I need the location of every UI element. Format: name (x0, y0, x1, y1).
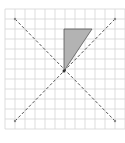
line-endpoint-marker (14, 120, 16, 122)
line-endpoint-marker (14, 18, 16, 20)
line-endpoint-marker (114, 18, 116, 20)
geometry-diagram (0, 0, 125, 143)
line-endpoint-marker (114, 120, 116, 122)
shaded-triangle (64, 29, 92, 71)
center-point (63, 70, 66, 73)
